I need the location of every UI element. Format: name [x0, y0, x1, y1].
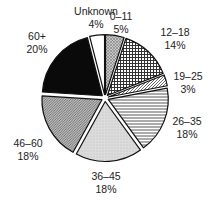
slice-label: 12–1814%: [160, 26, 189, 52]
slice-category: 46–60: [13, 137, 42, 150]
slice-percent: 14%: [160, 39, 189, 52]
slice-percent: 18%: [13, 150, 42, 163]
slice-percent: 20%: [26, 43, 47, 56]
slice-label: Unknown4%: [74, 5, 118, 31]
slice-category: 12–18: [160, 26, 189, 39]
slice-category: 19–25: [173, 70, 202, 83]
slice-category: 36–45: [91, 170, 120, 183]
slice-label: 60+20%: [26, 30, 47, 56]
slice-category: 60+: [26, 30, 47, 43]
slice-percent: 18%: [91, 183, 120, 196]
slice-category: 26–35: [172, 115, 201, 128]
slice-category: Unknown: [74, 5, 118, 18]
slice-label: 36–4518%: [91, 170, 120, 196]
slice-label: 46–6018%: [13, 137, 42, 163]
slice-percent: 18%: [172, 128, 201, 141]
pie-slices: [42, 35, 168, 162]
slice-label: 19–253%: [173, 70, 202, 96]
slice-percent: 4%: [74, 18, 118, 31]
slice-percent: 3%: [173, 83, 202, 96]
slice-label: 26–3518%: [172, 115, 201, 141]
